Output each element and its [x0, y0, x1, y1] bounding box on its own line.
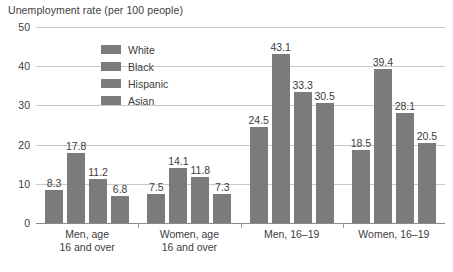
bar[interactable]: 14.1: [169, 168, 187, 223]
x-axis-category-label: Women, 16–19: [358, 228, 429, 241]
bar-fill: [213, 194, 231, 223]
x-axis-label-line: Men, 16–19: [264, 228, 319, 241]
bar-value-label: 30.5: [314, 90, 334, 102]
bar-fill: [418, 143, 436, 223]
bar-fill: [374, 69, 392, 223]
bar-value-label: 7.5: [149, 181, 164, 193]
bar-fill: [169, 168, 187, 223]
bar[interactable]: 24.5: [250, 127, 268, 223]
bar-fill: [272, 54, 290, 223]
bar-value-label: 11.2: [88, 166, 108, 178]
bar-value-label: 18.5: [351, 137, 371, 149]
legend-label: Hispanic: [128, 78, 168, 90]
bar-fill: [45, 190, 63, 223]
bar-value-label: 20.5: [417, 130, 437, 142]
y-axis-tick-label: 30: [18, 99, 30, 111]
y-axis-tick-label: 40: [18, 60, 30, 72]
legend-label: White: [128, 44, 155, 56]
y-axis-tick-label: 10: [18, 178, 30, 190]
bar[interactable]: 17.8: [67, 153, 85, 223]
bar-value-label: 14.1: [168, 155, 188, 167]
bar-value-label: 39.4: [373, 56, 393, 68]
bar[interactable]: 11.2: [89, 179, 107, 223]
bar[interactable]: 18.5: [352, 150, 370, 223]
x-axis-category-label: Women, age16 and over: [160, 228, 219, 254]
bar-value-label: 11.8: [191, 164, 211, 176]
bar[interactable]: 33.3: [294, 92, 312, 223]
x-axis-labels: Men, age16 and overWomen, age16 and over…: [36, 228, 445, 268]
bar-fill: [89, 179, 107, 223]
legend-swatch-icon: [101, 96, 121, 105]
legend-swatch-icon: [101, 45, 121, 54]
x-axis-label-line: 16 and over: [160, 241, 219, 254]
bar-group: 18.539.428.120.5: [343, 27, 445, 223]
bar[interactable]: 28.1: [396, 113, 414, 223]
bar-fill: [67, 153, 85, 223]
x-axis-label-line: Men, age: [59, 228, 114, 241]
bar-group: 24.543.133.330.5: [241, 27, 343, 223]
legend-item[interactable]: Black: [101, 58, 197, 75]
y-axis-tick-label: 0: [24, 217, 30, 229]
legend-label: Asian: [128, 95, 154, 107]
x-axis-category-label: Men, 16–19: [264, 228, 319, 241]
bar-value-label: 6.8: [113, 183, 128, 195]
chart-title: Unemployment rate (per 100 people): [8, 4, 183, 16]
bar[interactable]: 30.5: [316, 103, 334, 223]
bar[interactable]: 7.3: [213, 194, 231, 223]
bar[interactable]: 7.5: [147, 194, 165, 223]
bar[interactable]: 20.5: [418, 143, 436, 223]
legend: WhiteBlackHispanicAsian: [101, 41, 197, 109]
bar-groups: 8.317.811.26.87.514.111.87.324.543.133.3…: [36, 27, 445, 223]
bar-value-label: 8.3: [47, 177, 62, 189]
bar-value-label: 28.1: [395, 100, 415, 112]
bar-value-label: 43.1: [270, 41, 290, 53]
legend-item[interactable]: Asian: [101, 92, 197, 109]
legend-item[interactable]: Hispanic: [101, 75, 197, 92]
bar-fill: [111, 196, 129, 223]
bar-value-label: 17.8: [66, 140, 86, 152]
bar-fill: [191, 177, 209, 223]
bar-value-label: 33.3: [292, 79, 312, 91]
bar-fill: [316, 103, 334, 223]
bar[interactable]: 43.1: [272, 54, 290, 223]
legend-swatch-icon: [101, 79, 121, 88]
bar[interactable]: 8.3: [45, 190, 63, 223]
bar-fill: [250, 127, 268, 223]
bar-value-label: 7.3: [215, 181, 230, 193]
bar-fill: [396, 113, 414, 223]
bar[interactable]: 39.4: [374, 69, 392, 223]
x-axis-label-line: Women, age: [160, 228, 219, 241]
x-axis-category-label: Men, age16 and over: [59, 228, 114, 254]
y-axis-tick-label: 50: [18, 21, 30, 33]
x-axis-label-line: 16 and over: [59, 241, 114, 254]
plot-area: 01020304050 8.317.811.26.87.514.111.87.3…: [36, 27, 445, 223]
bar-fill: [352, 150, 370, 223]
bar-fill: [294, 92, 312, 223]
bar-value-label: 24.5: [248, 114, 268, 126]
bar[interactable]: 6.8: [111, 196, 129, 223]
y-axis-tick-label: 20: [18, 139, 30, 151]
legend-swatch-icon: [101, 62, 121, 71]
bar-fill: [147, 194, 165, 223]
legend-label: Black: [128, 61, 154, 73]
x-axis-label-line: Women, 16–19: [358, 228, 429, 241]
bar-chart: Unemployment rate (per 100 people) 01020…: [0, 0, 453, 272]
bar[interactable]: 11.8: [191, 177, 209, 223]
legend-item[interactable]: White: [101, 41, 197, 58]
